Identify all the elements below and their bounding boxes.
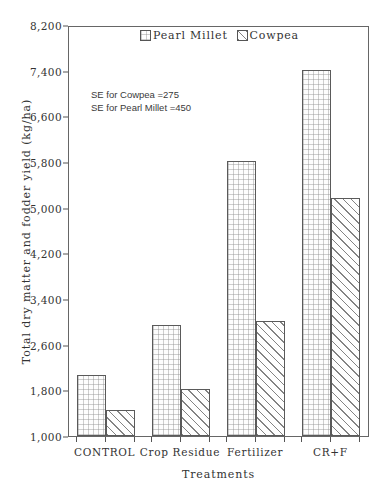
diagonal-hatch-swatch-icon xyxy=(237,30,248,41)
chart-legend: Pearl MilletCowpea xyxy=(69,29,369,42)
plot-area: Pearl MilletCowpea SE for Cowpea =275SE … xyxy=(68,26,369,437)
y-axis-tick-label: 5,000 xyxy=(22,203,62,215)
se-annotation: SE for Cowpea =275SE for Pearl Millet =4… xyxy=(91,89,191,114)
x-axis-category-label: Crop Residue xyxy=(140,446,220,458)
x-axis-tick-mark xyxy=(330,437,331,442)
x-axis-tick-mark xyxy=(284,437,285,442)
y-axis-tick-label: 8,200 xyxy=(22,20,62,32)
y-axis-tick-label: 1,800 xyxy=(22,385,62,397)
x-axis-category-label: CONTROL xyxy=(74,446,135,458)
bar-pearl-millet xyxy=(77,375,106,436)
bar-cowpea xyxy=(181,389,210,436)
x-axis-tick-mark xyxy=(209,437,210,442)
bar-pearl-millet xyxy=(152,325,181,436)
bar-cowpea xyxy=(106,410,135,436)
legend-label: Pearl Millet xyxy=(153,29,228,42)
x-axis-tick-mark xyxy=(151,437,152,442)
y-axis-tick-labels: 1,0001,8002,6003,4004,2005,0005,8006,600… xyxy=(22,0,62,492)
se-annotation-line: SE for Cowpea =275 xyxy=(91,89,191,102)
legend-label: Cowpea xyxy=(250,29,299,42)
se-annotation-line: SE for Pearl Millet =450 xyxy=(91,102,191,115)
x-axis-category-labels: CONTROLCrop ResidueFertilizerCR+F xyxy=(60,446,380,462)
chart-figure: Total dry matter and fodder yield (kg/ha… xyxy=(0,0,389,492)
x-axis-tick-mark xyxy=(301,437,302,442)
bar-pearl-millet xyxy=(227,161,256,436)
x-axis-category-label: Fertilizer xyxy=(227,446,283,458)
legend-entry: Pearl Millet xyxy=(140,29,228,42)
bar-pearl-millet xyxy=(302,70,331,436)
bar-cowpea xyxy=(256,321,285,436)
y-axis-tick-label: 4,200 xyxy=(22,248,62,260)
y-axis-tick-label: 3,400 xyxy=(22,294,62,306)
x-axis-tick-mark xyxy=(226,437,227,442)
cross-hatch-swatch-icon xyxy=(140,30,151,41)
x-axis-tick-mark xyxy=(105,437,106,442)
x-axis-tick-mark xyxy=(76,437,77,442)
x-axis-tick-mark xyxy=(359,437,360,442)
x-axis-title: Treatments xyxy=(68,468,369,481)
y-axis-tick-label: 5,800 xyxy=(22,157,62,169)
y-axis-tick-label: 2,600 xyxy=(22,340,62,352)
y-axis-tick-label: 6,600 xyxy=(22,111,62,123)
x-axis-tick-marks xyxy=(68,437,369,443)
bar-cowpea xyxy=(331,198,360,436)
x-axis-tick-mark xyxy=(134,437,135,442)
x-axis-tick-mark xyxy=(255,437,256,442)
x-axis-tick-mark xyxy=(180,437,181,442)
y-axis-tick-label: 1,000 xyxy=(22,431,62,443)
x-axis-category-label: CR+F xyxy=(313,446,348,458)
legend-entry: Cowpea xyxy=(237,29,299,42)
y-axis-tick-label: 7,400 xyxy=(22,66,62,78)
